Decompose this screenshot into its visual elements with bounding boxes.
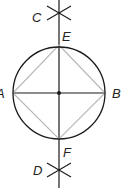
geometry-figure: C E A B F D <box>0 0 124 188</box>
label-d: D <box>33 163 42 178</box>
label-f: F <box>63 145 72 160</box>
diagram: C E A B F D <box>0 0 124 188</box>
label-a: A <box>0 86 5 101</box>
center-point <box>57 91 61 95</box>
label-e: E <box>62 29 71 44</box>
label-b: B <box>112 86 121 101</box>
label-c: C <box>32 10 42 25</box>
